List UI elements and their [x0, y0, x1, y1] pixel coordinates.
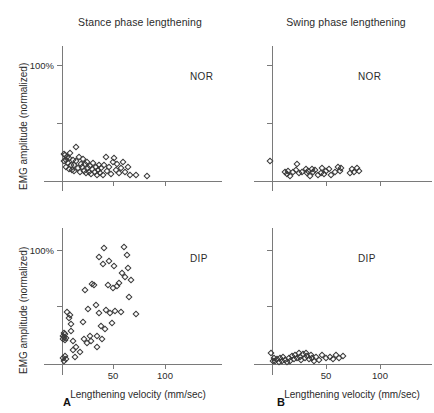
- data-point: [305, 356, 312, 363]
- data-point: [64, 153, 71, 160]
- data-point: [283, 170, 290, 177]
- data-point: [94, 166, 101, 173]
- data-point: [98, 335, 105, 342]
- data-point: [79, 164, 86, 171]
- data-point: [105, 164, 112, 171]
- data-point: [85, 306, 92, 313]
- data-point: [62, 157, 69, 164]
- data-point: [348, 166, 355, 173]
- data-point: [285, 167, 292, 174]
- y-axis-line-a-bottom: [62, 228, 63, 375]
- data-point: [290, 356, 297, 363]
- data-point: [63, 163, 70, 170]
- data-point: [318, 352, 325, 359]
- x-ticklabel-100-b-bottom: 100: [365, 370, 395, 381]
- y-tick-50-a-bottom: [57, 306, 62, 307]
- data-point: [289, 169, 296, 176]
- x-tick-50-b-top: [326, 181, 327, 186]
- group-label-nor-swing: NOR: [358, 71, 381, 82]
- y-axis-line-b-top: [272, 46, 273, 191]
- data-point: [338, 164, 345, 171]
- data-point: [73, 158, 80, 165]
- data-point: [298, 356, 305, 363]
- data-point: [119, 159, 126, 166]
- x-ticklabel-50-a-bottom: 50: [98, 370, 128, 381]
- data-point: [59, 335, 66, 342]
- data-point: [289, 352, 296, 359]
- x-ticklabel-100-a-bottom: 100: [150, 370, 180, 381]
- data-point: [82, 161, 89, 168]
- data-point: [312, 354, 319, 361]
- data-point: [305, 167, 312, 174]
- x-axis-title-a-bottom: Lengthening velocity (mm/sec): [58, 389, 218, 400]
- x-tick-50-b-bottom: [326, 364, 327, 369]
- data-point: [66, 155, 73, 162]
- y-tick-100-b-top: [267, 65, 272, 66]
- data-point: [100, 244, 107, 251]
- data-point: [65, 166, 72, 173]
- data-point: [115, 280, 122, 287]
- data-point: [112, 307, 119, 314]
- x-axis-line-a-bottom: [44, 364, 222, 365]
- y-tick-100-a-top: [57, 65, 62, 66]
- data-point: [295, 350, 302, 357]
- data-point: [296, 170, 303, 177]
- scatter-points-layer: [0, 0, 434, 413]
- data-point: [322, 355, 329, 362]
- panel-letter-b: B: [277, 396, 285, 408]
- data-point: [93, 333, 100, 340]
- data-point: [85, 168, 92, 175]
- data-point: [99, 260, 106, 267]
- figure-scatter-matrix: Stance phase lengthening Swing phase len…: [0, 0, 434, 413]
- data-point: [301, 354, 308, 361]
- data-point: [309, 355, 316, 362]
- data-point: [117, 164, 124, 171]
- data-point: [73, 343, 80, 350]
- data-point: [336, 354, 343, 361]
- data-point: [329, 355, 336, 362]
- data-point: [281, 356, 288, 363]
- data-point: [326, 353, 333, 360]
- data-point: [110, 284, 117, 291]
- data-point: [336, 167, 343, 174]
- data-point: [312, 166, 319, 173]
- data-point: [104, 168, 111, 175]
- data-point: [106, 310, 113, 317]
- data-point: [332, 351, 339, 358]
- data-point: [90, 281, 97, 288]
- data-point: [121, 168, 128, 175]
- data-point: [83, 170, 90, 177]
- data-point: [302, 166, 309, 173]
- data-point: [101, 162, 108, 169]
- data-point: [89, 281, 96, 288]
- data-point: [143, 172, 150, 179]
- data-point: [133, 310, 140, 317]
- data-point: [82, 286, 89, 293]
- data-point: [88, 170, 95, 177]
- x-tick-100-b-bottom: [380, 364, 381, 369]
- data-point: [325, 165, 332, 172]
- data-point: [76, 168, 83, 175]
- column-title-swing: Swing phase lengthening: [266, 16, 426, 28]
- data-point: [306, 172, 313, 179]
- data-point: [126, 293, 133, 300]
- data-point: [355, 167, 362, 174]
- data-point: [63, 308, 70, 315]
- group-label-dip-stance: DIP: [190, 253, 208, 264]
- data-point: [323, 168, 330, 175]
- data-point: [70, 347, 77, 354]
- data-point: [89, 165, 96, 172]
- y-tick-50-a-top: [57, 123, 62, 124]
- group-label-nor-stance: NOR: [190, 71, 213, 82]
- data-point: [128, 276, 135, 283]
- x-tick-100-a-top: [165, 181, 166, 186]
- data-point: [71, 354, 78, 361]
- data-point: [92, 163, 99, 170]
- data-point: [340, 352, 347, 359]
- data-point: [99, 172, 106, 179]
- x-axis-line-b-top: [254, 181, 432, 182]
- data-point: [86, 332, 93, 339]
- y-tick-100-a-bottom: [57, 250, 62, 251]
- data-point: [353, 164, 360, 171]
- data-point: [88, 337, 95, 344]
